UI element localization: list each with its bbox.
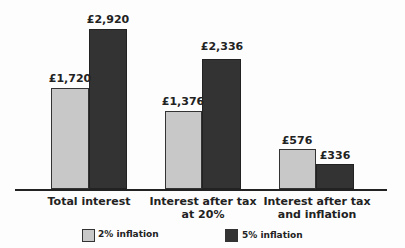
legend-label-2pct: 2% inflation [98, 229, 159, 239]
value-label: £336 [305, 149, 365, 162]
x-axis-line [15, 189, 387, 191]
category-line: Total interest [24, 195, 154, 208]
bar-after-tax-2pct [165, 111, 202, 189]
category-line: Interest after tax [138, 195, 268, 208]
value-label: £1,376 [153, 95, 213, 108]
legend-label-5pct: 5% inflation [242, 230, 303, 240]
bar-total-interest-5pct [89, 29, 127, 189]
value-label: £2,920 [78, 13, 138, 26]
bar-total-interest-2pct [51, 88, 89, 189]
legend-swatch-5pct [225, 229, 238, 242]
value-label: £576 [267, 134, 327, 147]
category-line: and inflation [252, 208, 382, 221]
value-label: £1,720 [40, 72, 100, 85]
legend-swatch-2pct [82, 229, 95, 242]
category-line: Interest after tax [252, 195, 382, 208]
bar-after-tax-5pct [202, 59, 241, 189]
value-label: £2,336 [192, 40, 252, 53]
category-label: Interest after tax and inflation [252, 195, 382, 221]
category-label: Interest after tax at 20% [138, 195, 268, 221]
bar-after-tax-inflation-5pct [316, 164, 354, 189]
category-label: Total interest [24, 195, 154, 208]
category-line: at 20% [138, 208, 268, 221]
